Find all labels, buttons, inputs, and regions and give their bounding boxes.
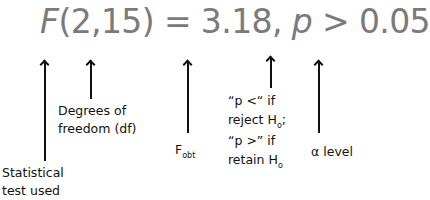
- text: reject H: [228, 112, 277, 127]
- label-line: Degrees of: [58, 102, 136, 120]
- label-line: “p >” if: [228, 131, 286, 150]
- apa-f-statistic-formula: F(2,15) = 3.18, p > 0.05: [40, 2, 430, 41]
- label-line: “p <“ if: [228, 91, 286, 110]
- label-line: test used: [2, 182, 64, 200]
- arrow-up-icon-alpha: [318, 61, 320, 133]
- formula-df: (2,15): [58, 2, 154, 41]
- subscript: o: [278, 161, 283, 170]
- formula-p: p: [292, 2, 312, 41]
- formula-value: = 3.18,: [154, 2, 292, 41]
- label-statistical-test: Statistical test used: [2, 164, 64, 200]
- text: retain H: [228, 152, 278, 167]
- formula-relation: > 0.05: [312, 2, 430, 41]
- arrow-up-icon-statistical-test: [44, 61, 46, 161]
- subscript: o: [277, 121, 282, 130]
- label-degrees-of-freedom: Degrees of freedom (df): [58, 102, 136, 138]
- arrow-up-icon-df: [90, 61, 92, 99]
- arrow-up-icon-p: [270, 57, 272, 88]
- text: ;: [282, 112, 286, 127]
- label-line: freedom (df): [58, 120, 136, 138]
- formula-stat: F: [40, 2, 58, 41]
- arrow-up-icon-fobt: [187, 61, 189, 133]
- label-p-rule: “p <“ if reject Ho; “p >” if retain Ho: [228, 91, 286, 171]
- label-line: reject Ho;: [228, 110, 286, 131]
- f-sub: obt: [182, 151, 195, 160]
- label-alpha-level: α level: [311, 143, 353, 161]
- label-line: Statistical: [2, 164, 64, 182]
- label-f-obt: Fobt: [175, 141, 195, 161]
- label-line: retain Ho: [228, 150, 286, 171]
